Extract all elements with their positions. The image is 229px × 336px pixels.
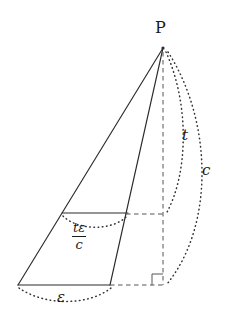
left-slant-edge bbox=[18, 48, 163, 285]
fraction-numerator: tε bbox=[72, 221, 86, 237]
measure-arcs-group bbox=[19, 52, 202, 302]
arc-label-epsilon: ε bbox=[57, 290, 65, 305]
arc-label-c: c bbox=[202, 163, 210, 178]
arc-c bbox=[167, 52, 202, 284]
figure-canvas: P t c ε tε c bbox=[0, 0, 229, 336]
right-slant-edge bbox=[110, 48, 163, 285]
arc-label-t: t bbox=[182, 128, 188, 143]
arc-t bbox=[166, 52, 183, 214]
fraction-denominator: c bbox=[72, 237, 86, 252]
apex-label-p: P bbox=[155, 20, 166, 36]
apex-point bbox=[161, 46, 164, 49]
geometry-diagram-svg bbox=[0, 0, 229, 336]
right-angle-marker bbox=[152, 274, 163, 285]
solid-outline-group bbox=[18, 48, 163, 285]
arc-label-cross-section-fraction: tε c bbox=[72, 221, 86, 251]
